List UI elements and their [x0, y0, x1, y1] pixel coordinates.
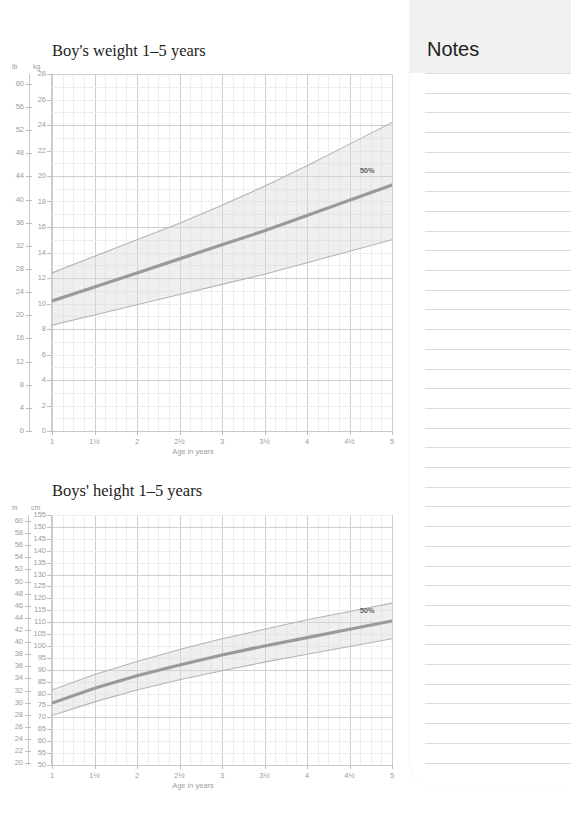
height-metric-tick-label: 105: [30, 630, 46, 638]
height-metric-tick-label: 60: [30, 737, 46, 745]
weight-imperial-tick: [26, 107, 32, 108]
notes-rule-line: [425, 369, 571, 370]
height-metric-tick: [47, 658, 52, 659]
height-imperial-tick-label: 58: [6, 529, 23, 537]
weight-imperial-tick-label: 32: [7, 242, 24, 250]
height-x-tick-label: 5: [378, 771, 406, 780]
weight-imperial-tick-label: 12: [7, 358, 24, 366]
height-metric-tick: [47, 598, 52, 599]
weight-imperial-tick-label: 40: [7, 196, 24, 204]
notes-rule-line: [425, 250, 571, 251]
weight-imperial-tick: [26, 269, 32, 270]
weight-imperial-tick-label: 0: [7, 427, 24, 435]
weight-x-tick-label: 2: [123, 437, 151, 446]
notes-header-band: [410, 0, 571, 73]
weight-imperial-tick-label: 20: [7, 311, 24, 319]
chart-weight-plot-area: [52, 74, 393, 431]
weight-imperial-tick-label: 8: [7, 381, 24, 389]
notes-rule-line: [425, 546, 571, 547]
height-imperial-tick: [25, 727, 31, 728]
height-metric-tick: [47, 682, 52, 683]
height-x-tick-label: 4: [293, 771, 321, 780]
notes-rule-line: [425, 211, 571, 212]
weight-imperial-tick: [26, 246, 32, 247]
weight-metric-tick: [47, 151, 52, 152]
weight-metric-tick-label: 6: [30, 351, 46, 359]
notes-writing-area[interactable]: [425, 73, 571, 762]
weight-imperial-tick-label: 48: [7, 149, 24, 157]
notes-rule-line: [425, 526, 571, 527]
height-imperial-tick-label: 34: [6, 674, 23, 682]
notes-rule-line: [425, 644, 571, 645]
height-metric-axis-rail: [51, 515, 52, 765]
weight-plot-svg: [52, 74, 392, 431]
height-metric-tick-label: 80: [30, 690, 46, 698]
height-x-tick-label: 2: [123, 771, 151, 780]
weight-metric-tick-label: 16: [30, 223, 46, 231]
notes-rule-line: [425, 447, 571, 448]
chart-weight-left-unit: lb: [12, 63, 17, 70]
height-x-tick: [180, 765, 181, 769]
chart-weight-xaxis-caption: Age in years: [0, 447, 396, 456]
weight-x-tick-label: 5: [378, 437, 406, 446]
height-metric-tick-label: 130: [30, 571, 46, 579]
notes-rule-line: [425, 191, 571, 192]
height-percentile-annotation: 50%: [360, 606, 375, 615]
height-imperial-tick-label: 52: [6, 565, 23, 573]
height-metric-tick: [47, 527, 52, 528]
weight-percentile-annotation: 50%: [360, 166, 375, 175]
weight-imperial-tick: [26, 84, 32, 85]
weight-metric-tick: [47, 100, 52, 101]
notes-rule-line: [425, 290, 571, 291]
weight-x-tick: [350, 431, 351, 435]
height-imperial-tick: [25, 691, 31, 692]
weight-imperial-tick: [26, 431, 32, 432]
weight-metric-tick-label: 0: [30, 427, 46, 435]
height-imperial-tick: [25, 569, 31, 570]
weight-imperial-tick: [26, 315, 32, 316]
weight-imperial-tick-label: 24: [7, 288, 24, 296]
height-imperial-tick-label: 60: [6, 517, 23, 525]
notes-rule-line: [425, 231, 571, 232]
height-metric-tick: [47, 634, 52, 635]
weight-metric-tick: [47, 380, 52, 381]
height-metric-tick-label: 150: [30, 523, 46, 531]
height-metric-tick: [47, 610, 52, 611]
weight-x-tick: [137, 431, 138, 435]
weight-metric-tick: [47, 278, 52, 279]
weight-metric-tick: [47, 201, 52, 202]
height-imperial-tick-label: 28: [6, 711, 23, 719]
height-imperial-tick: [25, 618, 31, 619]
weight-metric-tick-label: 20: [30, 172, 46, 180]
height-imperial-tick: [25, 654, 31, 655]
height-imperial-tick: [25, 642, 31, 643]
height-imperial-tick-label: 40: [6, 638, 23, 646]
weight-imperial-tick: [26, 130, 32, 131]
chart-height: Boys' height 1–5 years in cm 50556065707…: [0, 474, 406, 824]
height-metric-tick-label: 140: [30, 547, 46, 555]
height-imperial-tick: [25, 545, 31, 546]
height-metric-tick: [47, 670, 52, 671]
weight-imperial-tick: [26, 200, 32, 201]
notes-rule-line: [425, 329, 571, 330]
height-metric-tick-label: 120: [30, 594, 46, 602]
height-x-tick: [350, 765, 351, 769]
weight-metric-tick-label: 22: [30, 147, 46, 155]
weight-imperial-tick-label: 16: [7, 334, 24, 342]
notes-rule-line: [425, 506, 571, 507]
height-imperial-tick-label: 20: [6, 759, 23, 767]
weight-metric-tick-label: 14: [30, 249, 46, 257]
height-metric-tick-label: 90: [30, 666, 46, 674]
height-metric-tick-label: 100: [30, 642, 46, 650]
weight-imperial-tick: [26, 408, 32, 409]
notes-rule-line: [425, 566, 571, 567]
notes-rule-line: [425, 684, 571, 685]
weight-imperial-tick: [26, 385, 32, 386]
notes-rule-line: [425, 349, 571, 350]
height-x-tick: [307, 765, 308, 769]
weight-x-tick: [180, 431, 181, 435]
weight-metric-tick-label: 8: [30, 325, 46, 333]
height-imperial-tick-label: 30: [6, 699, 23, 707]
weight-metric-tick-label: 2: [30, 402, 46, 410]
height-metric-tick: [47, 622, 52, 623]
